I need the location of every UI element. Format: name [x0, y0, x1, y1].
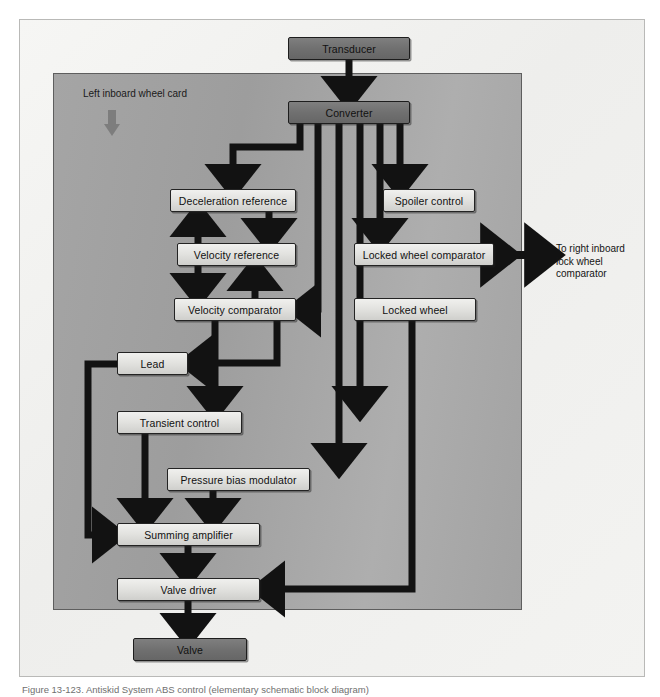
node-velocity-reference: Velocity reference [177, 243, 296, 266]
card-pointer-arrow [104, 110, 120, 136]
node-summing-amplifier: Summing amplifier [117, 523, 260, 546]
node-label: Summing amplifier [144, 529, 233, 541]
node-label: Locked wheel comparator [363, 249, 486, 261]
node-transient-control: Transient control [117, 411, 242, 434]
node-transducer: Transducer [288, 37, 410, 60]
node-spoiler-control: Spoiler control [383, 189, 475, 212]
card-label-left-inboard-wheel: Left inboard wheel card [83, 88, 187, 99]
node-label: Deceleration reference [179, 195, 287, 207]
node-label: Pressure bias modulator [180, 474, 296, 486]
node-label: Lead [141, 358, 165, 370]
wire-velocitycomp-lead [195, 321, 277, 363]
node-label: Valve driver [161, 584, 217, 596]
node-label: Velocity comparator [188, 304, 282, 316]
node-converter: Converter [288, 101, 410, 124]
wire-lead-summing [88, 364, 117, 535]
node-pressure-bias-modulator: Pressure bias modulator [167, 468, 310, 491]
figure-antiskid-block-diagram: Left inboard wheel card To right inboard… [0, 0, 660, 697]
figure-caption: Figure 13-123. Antiskid System ABS contr… [22, 684, 369, 695]
external-note-right-inboard-lock-wheel-comparator: To right inboard lock wheel comparator [556, 243, 656, 281]
node-velocity-comparator: Velocity comparator [174, 298, 296, 321]
node-label: Transducer [322, 43, 376, 55]
node-valve-driver: Valve driver [117, 578, 260, 601]
node-lead: Lead [117, 352, 188, 375]
node-locked-wheel: Locked wheel [354, 298, 476, 321]
node-label: Valve [177, 644, 203, 656]
node-label: Converter [325, 107, 372, 119]
node-label: Transient control [140, 417, 220, 429]
node-label: Locked wheel [382, 304, 447, 316]
wire-converter-velocity-comparator [303, 124, 318, 309]
node-label: Spoiler control [395, 195, 464, 207]
node-locked-wheel-comparator: Locked wheel comparator [354, 243, 494, 266]
wire-converter-deceleration [233, 124, 300, 182]
node-valve: Valve [133, 638, 247, 661]
node-label: Velocity reference [194, 249, 279, 261]
node-deceleration-reference: Deceleration reference [170, 189, 296, 212]
